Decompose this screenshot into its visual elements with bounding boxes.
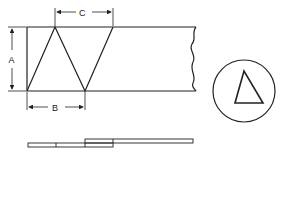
upper-strip (85, 139, 193, 143)
break-line (191, 27, 196, 91)
dim-b-label: B (52, 103, 58, 113)
dim-c-label: C (79, 8, 86, 18)
triangle-cuts (27, 27, 113, 91)
diagram-canvas: A C B (0, 0, 288, 209)
triangle-detail (235, 71, 263, 103)
dim-a-label: A (9, 55, 15, 65)
detail-circle (213, 60, 275, 122)
plan-view (27, 27, 196, 91)
circle-outline (213, 60, 275, 122)
side-view (28, 139, 193, 147)
lower-strip (28, 143, 113, 147)
strip-outline (27, 27, 196, 91)
